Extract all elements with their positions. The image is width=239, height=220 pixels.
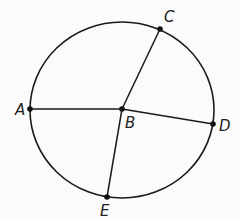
point-d-dot [210, 121, 216, 127]
circle-diagram: BACDE [0, 0, 239, 220]
label-b: B [125, 114, 135, 132]
point-a-dot [27, 106, 33, 112]
segment-bd [122, 109, 213, 124]
label-d: D [219, 117, 231, 135]
point-e-dot [104, 194, 110, 200]
segment-be [107, 109, 122, 197]
label-a: A [14, 101, 25, 119]
label-c: C [164, 8, 175, 26]
point-c-dot [157, 26, 163, 32]
segment-bc [122, 29, 160, 109]
label-e: E [100, 202, 110, 220]
point-b-dot [119, 106, 125, 112]
point-labels: BACDE [14, 8, 231, 220]
